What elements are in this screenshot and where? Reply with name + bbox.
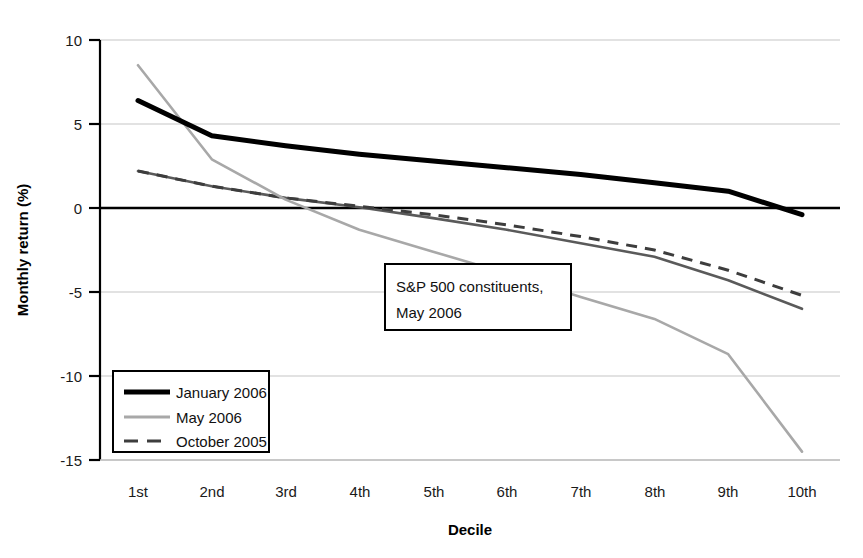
x-tick-label-10th: 10th [787,483,816,500]
legend-label-october-2005: October 2005 [176,433,267,450]
y-tick-label-10: 10 [65,32,82,49]
x-tick-label-9th: 9th [718,483,739,500]
annotation-line-2: May 2006 [396,304,462,321]
x-tick-label-7th: 7th [571,483,592,500]
y-tick-label-minus5: -5 [69,284,82,301]
y-tick-label-minus15: -15 [60,452,82,469]
y-tick-label-5: 5 [74,116,82,133]
line-chart: 10 5 0 -5 -10 -15 Monthly return (%) 1st… [0,0,863,558]
x-tick-label-8th: 8th [645,483,666,500]
x-tick-label-2nd: 2nd [199,483,224,500]
x-tick-label-1st: 1st [128,483,149,500]
x-axis-title: Decile [448,521,492,538]
y-tick-label-0: 0 [74,200,82,217]
y-axis-title: Monthly return (%) [14,184,31,317]
legend-label-january-2006: January 2006 [176,384,267,401]
chart-legend: January 2006 May 2006 October 2005 [113,371,269,452]
sample-annotation: S&P 500 constituents, May 2006 [385,264,571,330]
chart-container: 10 5 0 -5 -10 -15 Monthly return (%) 1st… [0,0,863,558]
x-tick-label-6th: 6th [497,483,518,500]
x-tick-label-5th: 5th [424,483,445,500]
annotation-line-1: S&P 500 constituents, [396,278,543,295]
x-tick-label-3rd: 3rd [275,483,297,500]
y-tick-label-minus10: -10 [60,368,82,385]
x-tick-label-4th: 4th [350,483,371,500]
legend-label-may-2006: May 2006 [176,409,242,426]
